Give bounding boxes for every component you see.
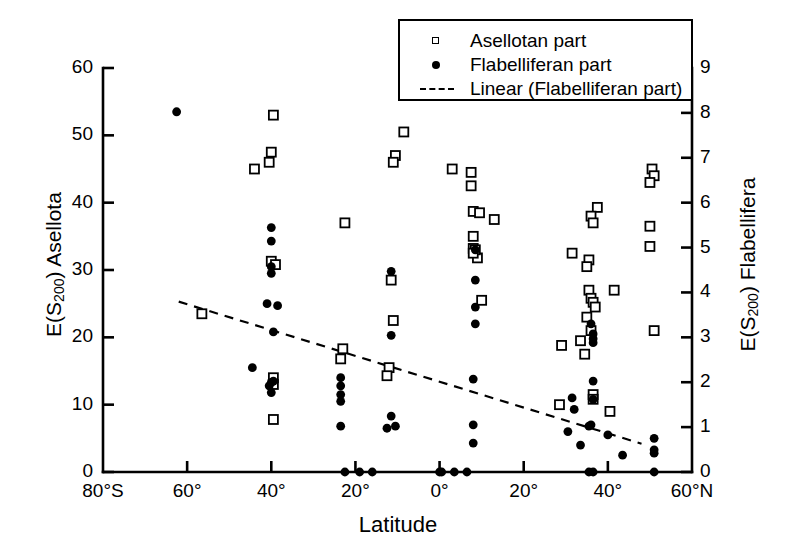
data-point-flabelliferan: [437, 468, 446, 477]
data-point-asellotan: [645, 242, 654, 251]
data-point-asellotan: [605, 407, 614, 416]
axis-ticks: [103, 68, 692, 472]
y-left-tick-label: 20: [33, 325, 93, 347]
data-point-asellotan: [389, 158, 398, 167]
data-point-flabelliferan: [248, 363, 257, 372]
data-point-asellotan: [387, 276, 396, 285]
data-point-asellotan: [580, 350, 589, 359]
legend-label: Linear (Flabelliferan part): [470, 77, 682, 101]
data-point-flabelliferan: [650, 434, 659, 443]
data-point-asellotan: [475, 208, 484, 217]
y-left-tick-label: 50: [33, 123, 93, 145]
data-point-asellotan: [269, 111, 278, 120]
y-right-tick-label: 9: [700, 56, 760, 78]
scatter-plot-figure: E(S200) Asellota E(S200) Flabellifera La…: [0, 0, 796, 559]
data-point-asellotan: [477, 296, 486, 305]
x-tick-label: 0°: [400, 480, 480, 502]
x-tick-label: 20°: [315, 480, 395, 502]
data-point-flabelliferan: [267, 223, 276, 232]
data-point-flabelliferan: [336, 373, 345, 382]
data-point-asellotan: [382, 371, 391, 380]
y-right-tick-label: 6: [700, 191, 760, 213]
legend-label: Flabelliferan part: [470, 53, 612, 77]
data-point-asellotan: [645, 222, 654, 231]
data-point-flabelliferan: [336, 397, 345, 406]
x-tick-label: 60°: [147, 480, 227, 502]
data-point-asellotan: [269, 415, 278, 424]
data-point-flabelliferan: [589, 395, 598, 404]
data-point-flabelliferan: [469, 439, 478, 448]
x-tick-label: 80°S: [63, 480, 143, 502]
data-point-flabelliferan: [585, 422, 594, 431]
data-point-flabelliferan: [471, 303, 480, 312]
data-point-flabelliferan: [267, 388, 276, 397]
data-point-flabelliferan: [391, 422, 400, 431]
data-point-flabelliferan: [469, 375, 478, 384]
axes-frame: [103, 68, 692, 472]
data-point-asellotan: [582, 262, 591, 271]
y-left-tick-label: 40: [33, 191, 93, 213]
data-point-asellotan: [591, 303, 600, 312]
y-right-tick-label: 4: [700, 280, 760, 302]
data-point-asellotan: [555, 400, 564, 409]
data-point-asellotan: [399, 127, 408, 136]
data-point-asellotan: [557, 341, 566, 350]
y-right-tick-label: 0: [700, 460, 760, 482]
data-point-flabelliferan: [269, 328, 278, 337]
data-point-asellotan: [338, 344, 347, 353]
data-point-flabelliferan: [263, 299, 272, 308]
data-point-flabelliferan: [589, 468, 598, 477]
data-point-asellotan: [610, 286, 619, 295]
data-point-flabelliferan: [563, 427, 572, 436]
data-point-asellotan: [650, 326, 659, 335]
y-right-tick-label: 2: [700, 370, 760, 392]
data-point-asellotan: [467, 168, 476, 177]
legend-label: Asellotan part: [470, 29, 586, 53]
data-point-asellotan: [593, 203, 602, 212]
x-tick-label: 60°N: [652, 480, 732, 502]
y-right-tick-label: 7: [700, 146, 760, 168]
data-point-flabelliferan: [469, 420, 478, 429]
x-axis-title: Latitude: [0, 512, 796, 538]
data-point-flabelliferan: [368, 468, 377, 477]
data-point-asellotan: [265, 158, 274, 167]
y-right-tick-label: 8: [700, 101, 760, 123]
data-point-asellotan: [448, 165, 457, 174]
data-point-flabelliferan: [650, 468, 659, 477]
data-point-asellotan: [645, 178, 654, 187]
data-point-asellotan: [336, 354, 345, 363]
data-point-flabelliferan: [589, 338, 598, 347]
data-point-flabelliferan: [269, 377, 278, 386]
data-point-flabelliferan: [618, 451, 627, 460]
data-point-flabelliferan: [471, 319, 480, 328]
data-point-asellotan: [568, 249, 577, 258]
trendline-path: [179, 302, 642, 444]
data-point-flabelliferan: [471, 276, 480, 285]
data-point-flabelliferan: [471, 245, 480, 254]
data-point-asellotan: [589, 218, 598, 227]
dashed-line-icon: [418, 77, 468, 101]
trendline: [179, 302, 642, 444]
dashed-line-icon-glyph: [420, 88, 454, 90]
y-left-tick-label: 10: [33, 393, 93, 415]
data-point-flabelliferan: [387, 331, 396, 340]
data-point-flabelliferan: [267, 269, 276, 278]
data-point-asellotan: [267, 148, 276, 157]
data-point-flabelliferan: [267, 237, 276, 246]
data-point-asellotan: [340, 218, 349, 227]
data-point-flabelliferan: [336, 422, 345, 431]
y-left-tick-label: 30: [33, 258, 93, 280]
filled-circle-icon-glyph: [432, 61, 440, 69]
data-point-flabelliferan: [576, 441, 585, 450]
data-point-flabelliferan: [463, 468, 472, 477]
open-square-icon: [418, 29, 468, 53]
x-tick-label: 40°: [568, 480, 648, 502]
x-tick-label: 20°: [484, 480, 564, 502]
data-point-flabelliferan: [568, 394, 577, 403]
data-point-flabelliferan: [355, 468, 364, 477]
data-point-asellotan: [250, 165, 259, 174]
legend-item: Flabelliferan part: [400, 53, 695, 77]
data-point-flabelliferan: [587, 319, 596, 328]
y-left-tick-label: 0: [33, 460, 93, 482]
data-point-flabelliferan: [172, 107, 181, 116]
